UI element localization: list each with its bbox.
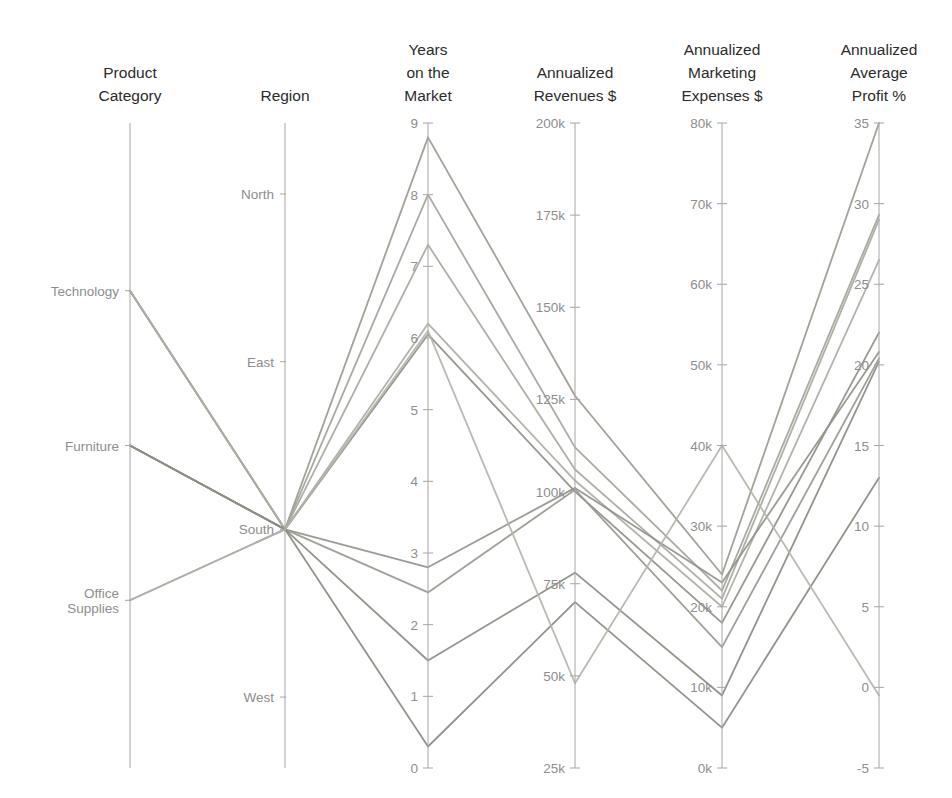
axis-tick-label: 100k [536, 485, 566, 500]
axis-tick-label: 3 [410, 546, 418, 561]
axis-title-line: Market [404, 87, 452, 104]
axis-tick-label: 20k [690, 600, 712, 615]
axis-tick-label: 75k [543, 577, 565, 592]
axis-title-line: Annualized [841, 41, 918, 58]
axis-title-line: Category [99, 87, 162, 104]
axis-tick-label: 8 [410, 188, 418, 203]
axis-tick-label: 2 [410, 618, 418, 633]
axis-title-region: Region [260, 87, 309, 104]
axis-years_on_market[interactable]: 0123456789 [410, 116, 433, 776]
axis-tick-label: 20 [854, 358, 869, 373]
axis-category-label: West [243, 690, 274, 705]
axis-title-line: Expenses $ [682, 87, 763, 104]
axis-title-line: Years [408, 41, 447, 58]
axis-tick-label: 1 [410, 689, 418, 704]
axis-tick-label: 70k [690, 197, 712, 212]
axis-product_category[interactable]: TechnologyFurnitureOfficeSupplies [51, 123, 131, 768]
axis-tick-label: 0 [861, 680, 869, 695]
axis-title-line: on the [406, 64, 449, 81]
axis-category-label: South [239, 522, 274, 537]
axis-annualized_average_profit[interactable]: -505101520253035 [854, 116, 884, 776]
axis-category-label: North [241, 187, 274, 202]
axis-title-years_on_market: Yearson theMarket [404, 41, 452, 104]
axes-layer: TechnologyFurnitureOfficeSuppliesNorthEa… [51, 116, 884, 776]
axis-tick-label: 5 [410, 403, 418, 418]
axis-title-annualized_revenues: AnnualizedRevenues $ [534, 64, 617, 104]
axis-title-line: Product [103, 64, 157, 81]
axis-tick-label: 6 [410, 331, 418, 346]
axis-title-annualized_marketing_expenses: AnnualizedMarketingExpenses $ [682, 41, 763, 104]
axis-tick-label: 4 [410, 474, 418, 489]
axis-category-label: East [247, 355, 274, 370]
axis-title-line: Marketing [688, 64, 756, 81]
axis-tick-label: 60k [690, 277, 712, 292]
axis-category-label: Supplies [67, 601, 119, 616]
series-line[interactable] [130, 333, 879, 623]
axis-tick-label: 175k [536, 208, 566, 223]
series-line[interactable] [130, 358, 879, 647]
parallel-coordinates-chart: TechnologyFurnitureOfficeSuppliesNorthEa… [0, 0, 952, 798]
axis-tick-label: 7 [410, 259, 418, 274]
axis-title-line: Annualized [684, 41, 761, 58]
series-line[interactable] [130, 331, 879, 696]
axis-category-label: Office [84, 586, 119, 601]
axis-tick-label: 40k [690, 439, 712, 454]
axis-title-product_category: ProductCategory [99, 64, 162, 104]
axis-annualized_marketing_expenses[interactable]: 0k10k20k30k40k50k60k70k80k [690, 116, 727, 776]
axis-tick-label: 15 [854, 439, 869, 454]
axis-titles-layer: ProductCategoryRegionYearson theMarketAn… [99, 41, 918, 104]
axis-title-line: Annualized [537, 64, 614, 81]
axis-title-line: Profit % [852, 87, 906, 104]
axis-tick-label: 50k [690, 358, 712, 373]
axis-tick-label: 80k [690, 116, 712, 131]
axis-tick-label: 35 [854, 116, 869, 131]
axis-title-line: Region [260, 87, 309, 104]
axis-tick-label: 150k [536, 300, 566, 315]
axis-title-line: Average [850, 64, 907, 81]
series-line[interactable] [130, 260, 879, 607]
axis-region[interactable]: NorthEastSouthWest [239, 123, 286, 768]
axis-tick-label: 125k [536, 392, 566, 407]
axis-tick-label: 0 [410, 761, 418, 776]
axis-tick-label: 50k [543, 669, 565, 684]
axis-category-label: Furniture [65, 439, 119, 454]
axis-tick-label: 30 [854, 197, 869, 212]
axis-title-line: Revenues $ [534, 87, 617, 104]
axis-tick-label: 25k [543, 761, 565, 776]
chart-canvas: TechnologyFurnitureOfficeSuppliesNorthEa… [0, 0, 952, 798]
axis-category-label: Technology [51, 284, 120, 299]
axis-tick-label: 30k [690, 519, 712, 534]
series-layer [130, 123, 879, 747]
axis-tick-label: 10k [690, 680, 712, 695]
axis-tick-label: 9 [410, 116, 418, 131]
axis-tick-label: 5 [861, 600, 869, 615]
axis-title-annualized_average_profit: AnnualizedAverageProfit % [841, 41, 918, 104]
axis-tick-label: -5 [857, 761, 869, 776]
axis-tick-label: 0k [698, 761, 713, 776]
axis-tick-label: 200k [536, 116, 566, 131]
axis-tick-label: 25 [854, 277, 869, 292]
axis-tick-label: 10 [854, 519, 869, 534]
